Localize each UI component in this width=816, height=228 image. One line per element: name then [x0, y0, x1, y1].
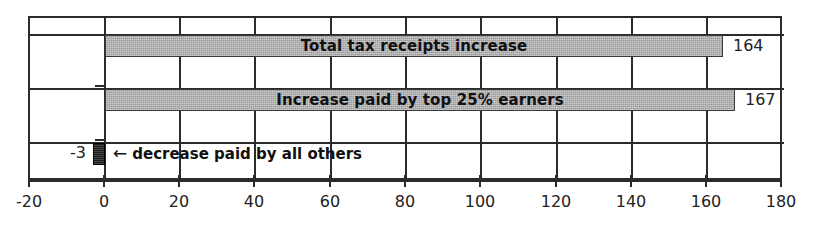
x-axis-label: 120	[541, 192, 572, 211]
x-axis-tick	[404, 175, 406, 187]
x-axis-label: 0	[99, 192, 109, 211]
decrease-callout-text: decrease paid by all others	[132, 145, 362, 163]
x-axis-tick	[103, 175, 105, 187]
x-axis-tick	[780, 175, 782, 187]
x-axis-tick	[705, 175, 707, 187]
x-axis-label: 40	[244, 192, 264, 211]
left-arrow-icon: ←	[113, 143, 127, 163]
x-axis-label: 80	[395, 192, 415, 211]
decrease-callout-annotation: ←decrease paid by all others	[113, 143, 362, 163]
x-axis-tick	[329, 175, 331, 187]
bar-label-total-tax-receipts-increase: Total tax receipts increase	[106, 36, 722, 56]
bar-label-increase-paid-by-top-25-earners: Increase paid by top 25% earners	[106, 90, 734, 110]
x-axis-label: 180	[766, 192, 797, 211]
bar-decrease-paid-by-all-others[interactable]	[93, 143, 105, 165]
x-axis-tick	[555, 175, 557, 187]
value-label-increase-paid-by-top-25-earners: 167	[745, 90, 776, 109]
category-tick	[95, 139, 104, 141]
x-axis-tick	[479, 175, 481, 187]
x-axis-label: 100	[465, 192, 496, 211]
bar-increase-paid-by-top-25-earners[interactable]: Increase paid by top 25% earners	[105, 89, 735, 111]
x-axis-tick	[630, 175, 632, 187]
x-axis-label: 140	[616, 192, 647, 211]
x-axis-tick	[178, 175, 180, 187]
x-axis-label: 60	[320, 192, 340, 211]
x-axis-tick	[253, 175, 255, 187]
x-axis-tick	[28, 175, 30, 187]
category-tick	[95, 85, 104, 87]
value-label-total-tax-receipts-increase: 164	[733, 36, 764, 55]
bar-total-tax-receipts-increase[interactable]: Total tax receipts increase	[105, 35, 723, 57]
x-axis-label: -20	[16, 192, 42, 211]
bar-chart: Total tax receipts increase Increase pai…	[0, 0, 816, 228]
value-label-decrease-paid-by-all-others: -3	[40, 143, 86, 162]
x-axis-label: 20	[169, 192, 189, 211]
x-axis-label: 160	[691, 192, 722, 211]
